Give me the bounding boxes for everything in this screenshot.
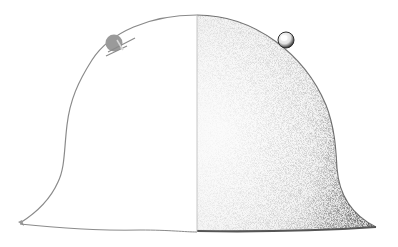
left-rivet-icon	[106, 35, 136, 57]
helmet-drawing	[0, 0, 398, 247]
right-rivet-icon	[278, 32, 294, 48]
helmet-illustration: helmet illustration	[0, 0, 398, 247]
left-brim-line	[20, 224, 197, 232]
